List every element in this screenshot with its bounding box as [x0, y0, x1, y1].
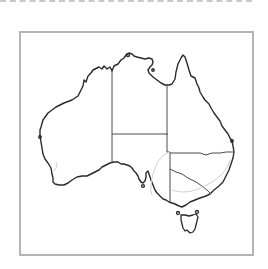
coast-detail	[152, 69, 154, 71]
mainland-coastline	[40, 53, 234, 207]
faint-region-trace	[52, 162, 57, 172]
qld-nsw-border	[170, 152, 233, 155]
coast-detail	[142, 185, 145, 188]
faint-region-trace	[172, 160, 230, 192]
australia-map	[0, 0, 268, 269]
nsw-vic-border	[170, 169, 211, 194]
island-detail	[196, 211, 199, 214]
island-detail	[177, 212, 180, 215]
coast-detail	[127, 54, 130, 57]
sa-qld-border	[167, 134, 170, 152]
tasmania-outline	[181, 214, 198, 233]
